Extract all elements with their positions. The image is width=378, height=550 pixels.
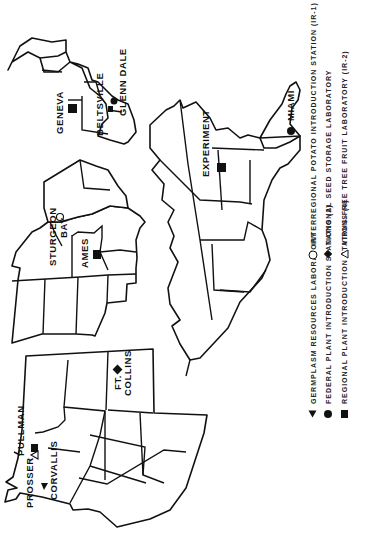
miami-marker-circle-icon xyxy=(287,127,295,135)
label-collins: COLLINS xyxy=(122,350,133,396)
legend-virus-free-text: VIRUS-FREE TREE FRUIT LABORATORY (IR-2) xyxy=(341,50,349,245)
midwest-states xyxy=(12,206,145,343)
legend-circle-filled-icon xyxy=(324,410,332,418)
southern-states xyxy=(150,100,300,376)
legend-right-column: INTERREGIONAL POTATO INTRODUCTION STATIO… xyxy=(309,2,349,259)
ames-marker-square-icon xyxy=(93,250,101,259)
pullman-marker-square-icon xyxy=(31,444,38,452)
us-map-outline: PULLMAN PROSSER CORVALLIS FT. COLLINS ST… xyxy=(0,0,378,550)
label-corvallis: CORVALLIS xyxy=(48,441,59,500)
label-geneva: GENEVA xyxy=(54,91,65,134)
label-ames: AMES xyxy=(79,238,90,268)
label-beltsville: BELTSVILLE xyxy=(94,73,105,136)
label-sturgeon: STURGEON xyxy=(47,207,58,266)
label-experiment: EXPERIMENT xyxy=(200,109,211,177)
label-prosser: PROSSER xyxy=(24,457,35,508)
label-glenn-dale: GLENN DALE xyxy=(117,48,128,116)
label-pullman: PULLMAN xyxy=(15,405,26,456)
experiment-marker-square-icon xyxy=(217,163,226,172)
legend-interregional-text: INTERREGIONAL POTATO INTRODUCTION STATIO… xyxy=(310,2,318,245)
legend-triangle-filled-icon xyxy=(309,411,317,418)
beltsville-marker-square-icon xyxy=(108,106,113,112)
legend-square-icon xyxy=(341,410,348,418)
legend-national-seed-text: NATIONAL SEED STORAGE LABORATORY xyxy=(325,70,332,245)
geneva-marker-square-icon xyxy=(68,104,77,113)
germplasm-station-map: PULLMAN PROSSER CORVALLIS FT. COLLINS ST… xyxy=(0,0,378,550)
legend-circle-open-icon xyxy=(309,251,317,259)
western-states xyxy=(5,349,207,527)
label-miami: MIAMI xyxy=(285,90,296,121)
label-bay: BAY xyxy=(58,217,69,238)
